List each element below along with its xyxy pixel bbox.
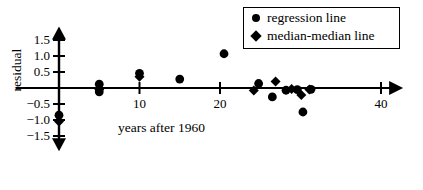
legend-label-median-median-line: median-median line	[267, 29, 375, 43]
legend: regression line median-median line	[243, 7, 400, 49]
data-point-circle	[268, 93, 277, 102]
circle-marker-icon	[252, 14, 260, 22]
residual-scatter-chart: 1.51.00.5−0.5−1.0−1.5102040 residual yea…	[0, 0, 423, 190]
x-tick-label: 10	[120, 97, 160, 110]
y-axis-arrow-down-icon	[52, 138, 66, 151]
y-tick-label: −1.0	[5, 113, 50, 126]
data-point-diamond	[271, 77, 281, 87]
x-tick-label: 40	[361, 97, 401, 110]
x-axis-label: years after 1960	[118, 120, 205, 136]
legend-label-regression-line: regression line	[267, 11, 346, 25]
x-axis-arrow-icon	[389, 81, 403, 95]
y-axis-label: residual	[9, 40, 25, 100]
data-point-circle	[299, 108, 308, 117]
data-point-circle	[254, 79, 263, 88]
data-point-circle	[220, 49, 229, 58]
data-point-circle	[175, 75, 184, 84]
y-axis-arrow-up-icon	[52, 26, 66, 39]
legend-item-median-median-line: median-median line	[252, 29, 375, 43]
data-point-diamond	[54, 117, 64, 127]
legend-item-regression-line: regression line	[252, 11, 346, 25]
x-tick-label: 20	[200, 97, 240, 110]
y-tick-label: −1.5	[5, 129, 50, 142]
diamond-marker-icon	[250, 30, 261, 41]
